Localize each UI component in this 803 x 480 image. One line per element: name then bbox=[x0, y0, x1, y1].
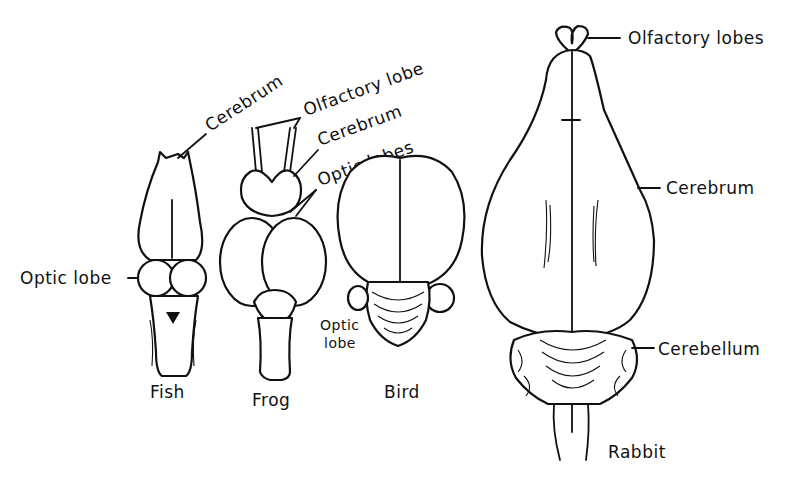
rabbit-olfactory-lobes-label: Olfactory lobes bbox=[628, 28, 764, 48]
bird-caption: Bird bbox=[384, 382, 420, 402]
bird-optic-label-line1: Optic bbox=[320, 317, 359, 333]
frog-olfactory-leader bbox=[256, 118, 300, 128]
brain-comparison-diagram: Cerebrum Optic lobe Fish Olfactory lobe … bbox=[0, 0, 803, 480]
rabbit-caption: Rabbit bbox=[608, 442, 666, 462]
fish-caption: Fish bbox=[150, 382, 185, 402]
rabbit-cerebrum-label: Cerebrum bbox=[666, 178, 755, 198]
rabbit-cerebellum-label: Cerebellum bbox=[658, 339, 760, 359]
frog-caption: Frog bbox=[252, 390, 290, 410]
bird-optic-label-line2: lobe bbox=[324, 335, 356, 351]
frog-brain bbox=[220, 128, 326, 380]
frog-olfactory-lobe-label: Olfactory lobe bbox=[301, 58, 427, 120]
fish-optic-lobe-label: Optic lobe bbox=[20, 268, 112, 288]
fish-cerebrum-label: Cerebrum bbox=[201, 70, 286, 135]
fish-cerebrum-leader bbox=[178, 134, 206, 158]
rabbit-brain bbox=[482, 26, 654, 460]
fish-brain bbox=[138, 152, 206, 376]
